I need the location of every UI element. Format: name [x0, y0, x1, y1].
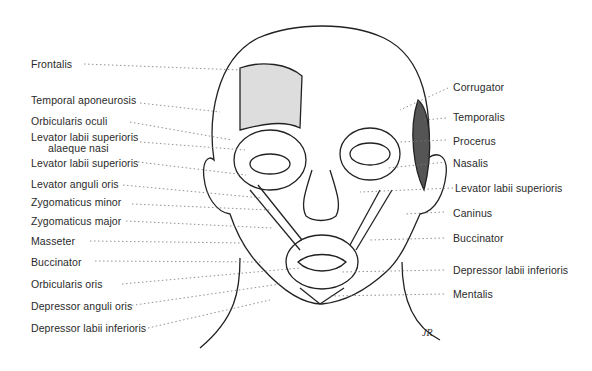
neck-right: [402, 262, 440, 340]
lips: [298, 255, 346, 272]
label-buccinator-left: Buccinator: [31, 256, 82, 268]
label-masseter: Masseter: [31, 235, 75, 247]
left-eye-orbit: [340, 128, 400, 180]
label-depressor-labii-inferioris-right: Depressor labii inferioris: [453, 264, 568, 276]
label-mentalis: Mentalis: [453, 288, 493, 300]
label-line-2: alaeque nasi: [31, 143, 138, 154]
label-levator-labii-superioris-alaeque-nasi: Levator labii superioris alaeque nasi: [31, 132, 138, 154]
label-levator-anguli-oris: Levator anguli oris: [31, 178, 119, 190]
label-procerus: Procerus: [453, 135, 496, 147]
nose: [304, 170, 339, 221]
label-temporalis: Temporalis: [453, 111, 505, 123]
label-levator-labii-superioris-right: Levator labii superioris: [455, 182, 562, 194]
label-orbicularis-oris: Orbicularis oris: [31, 278, 103, 290]
label-depressor-labii-inferioris-left: Depressor labii inferioris: [31, 322, 146, 334]
orbicularis-oris-shape: [286, 235, 358, 289]
right-eye-orbit: [234, 130, 306, 190]
label-caninus: Caninus: [453, 207, 492, 219]
label-nasalis: Nasalis: [453, 157, 488, 169]
label-frontalis: Frontalis: [31, 58, 72, 70]
label-zygomaticus-minor: Zygomaticus minor: [31, 196, 121, 208]
signature: JR: [422, 327, 433, 338]
label-levator-labii-superioris-left: Levator labii superioris: [31, 157, 138, 169]
label-orbicularis-oculi: Orbicularis oculi: [31, 115, 107, 127]
label-corrugator: Corrugator: [453, 81, 504, 93]
label-buccinator-right: Buccinator: [453, 232, 504, 244]
label-zygomaticus-major: Zygomaticus major: [31, 215, 121, 227]
neck-left: [200, 258, 240, 348]
label-depressor-anguli-oris: Depressor anguli oris: [31, 300, 132, 312]
label-temporal-aponeurosis: Temporal aponeurosis: [31, 94, 136, 106]
